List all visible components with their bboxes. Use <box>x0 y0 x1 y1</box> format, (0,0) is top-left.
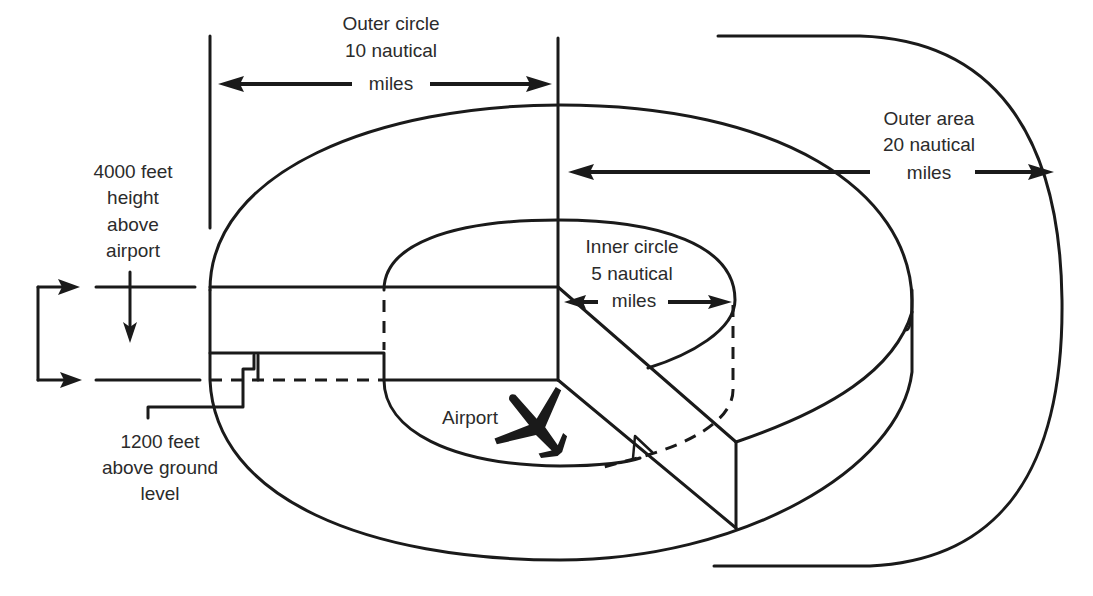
altitude-bracket <box>38 272 137 388</box>
outer-area-label-line3: miles <box>907 162 951 183</box>
outer-circle-dimension <box>210 36 552 228</box>
inner-circle-label-line1: Inner circle <box>586 236 679 257</box>
outer-area-label-line1: Outer area <box>884 108 975 129</box>
airport-label: Airport <box>442 407 499 428</box>
outer-circle-label: Outer circle 10 nautical miles <box>342 13 439 94</box>
upper-limit-label: 4000 feet height above airport <box>93 161 173 261</box>
inner-circle-label-line3: miles <box>612 290 656 311</box>
shelf-floor-label-line2: above ground <box>102 457 218 478</box>
outer-circle-label-line2: 10 nautical <box>345 40 437 61</box>
upper-limit-label-line3: above <box>107 214 159 235</box>
upper-limit-label-line4: airport <box>106 240 161 261</box>
outer-area-label-line2: 20 nautical <box>883 134 975 155</box>
outer-circle-label-line3: miles <box>369 73 413 94</box>
upper-limit-label-line2: height <box>107 187 159 208</box>
upper-limit-label-line1: 4000 feet <box>93 161 173 182</box>
outer-circle-label-line1: Outer circle <box>342 13 439 34</box>
floor-line <box>96 287 384 380</box>
shelf-floor-label-line3: level <box>140 483 179 504</box>
outer-area-label: Outer area 20 nautical miles <box>883 108 975 183</box>
outer-area-dimension <box>568 164 1054 180</box>
shelf-floor-label-line1: 1200 feet <box>120 431 200 452</box>
inner-circle-label: Inner circle 5 nautical miles <box>586 236 679 311</box>
shelf-floor-label: 1200 feet above ground level <box>102 431 218 504</box>
airspace-diagram: Outer circle 10 nautical miles Outer are… <box>0 0 1093 596</box>
inner-circle-label-line2: 5 nautical <box>591 263 672 284</box>
